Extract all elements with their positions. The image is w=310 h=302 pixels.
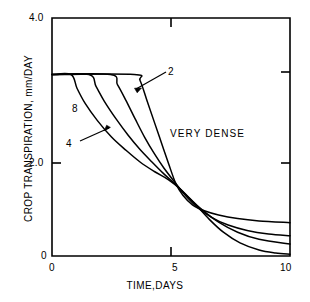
- chart-figure: 4.0 2.0 0 0 5 10 TIME,DAYS CROP TRANSPIR…: [0, 0, 310, 302]
- curve-label-8: 8: [72, 103, 78, 114]
- leader-arrow-4: [104, 125, 110, 130]
- x-tick-label-0: 0: [49, 262, 55, 273]
- curve-16: [52, 74, 290, 255]
- leader-arrow-2: [135, 88, 142, 93]
- y-tick-label-0: 0: [41, 250, 47, 261]
- curve-8: [52, 74, 290, 244]
- x-tick-label-5: 5: [172, 262, 178, 273]
- curve-4: [52, 74, 290, 236]
- curve-label-4: 4: [66, 138, 72, 149]
- x-tick-label-10: 10: [280, 262, 292, 273]
- region-label-very-dense: VERY DENSE: [170, 128, 245, 139]
- data-curves: [52, 74, 290, 255]
- annotation-leaders: [80, 72, 166, 141]
- curve-2: [52, 74, 290, 223]
- y-tick-label-4: 4.0: [29, 12, 44, 23]
- y-axis-title: CROP TRANSPIRATION, mm/DAY: [23, 29, 34, 249]
- x-axis-title: TIME,DAYS: [0, 280, 310, 291]
- curve-label-2: 2: [168, 66, 174, 77]
